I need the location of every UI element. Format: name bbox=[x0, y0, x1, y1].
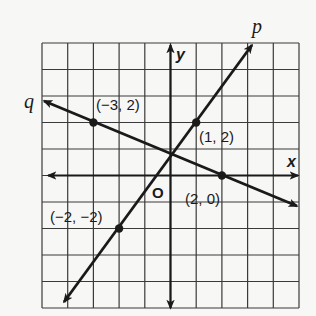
origin-label: O bbox=[152, 184, 164, 201]
line-label-p: p bbox=[250, 15, 262, 38]
point-label: (−2, −2) bbox=[50, 208, 103, 225]
coordinate-axes bbox=[48, 45, 298, 308]
point-label: (1, 2) bbox=[199, 128, 234, 145]
coordinate-plane-figure: (−3, 2)(2, 0)(1, 2)(−2, −2)pqxyO bbox=[0, 0, 316, 316]
y-axis-label: y bbox=[175, 46, 186, 63]
point-dot bbox=[89, 118, 97, 126]
point-label: (2, 0) bbox=[185, 190, 220, 207]
figure-labels: (−3, 2)(2, 0)(1, 2)(−2, −2)pqxyO bbox=[24, 15, 297, 225]
point-dot bbox=[115, 224, 123, 232]
point-dot bbox=[218, 171, 226, 179]
point-label: (−3, 2) bbox=[96, 96, 140, 113]
point-dot bbox=[192, 118, 200, 126]
x-axis-label: x bbox=[286, 153, 297, 170]
line-label-q: q bbox=[24, 90, 34, 113]
